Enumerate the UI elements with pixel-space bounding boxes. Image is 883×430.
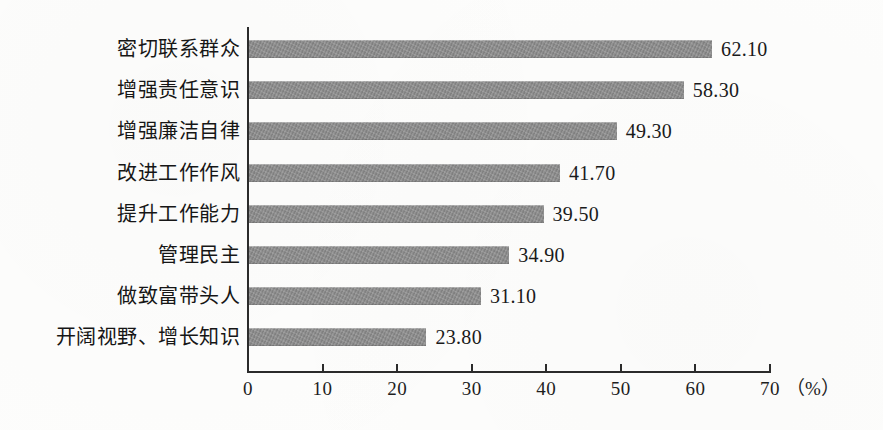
bar-value-label: 49.30 — [626, 120, 673, 142]
bar-value-label: 31.10 — [490, 285, 537, 307]
x-axis-tick — [694, 364, 696, 372]
category-label: 改进工作作风 — [117, 161, 240, 185]
bar — [249, 205, 544, 223]
x-axis-tick — [247, 364, 249, 372]
bar-value-label: 34.90 — [518, 244, 565, 266]
x-axis-tick — [396, 364, 398, 372]
bar — [249, 328, 426, 346]
bar-row: 改进工作作风41.70 — [0, 164, 883, 182]
bar-value-label: 41.70 — [569, 162, 616, 184]
x-axis-tick-label: 10 — [313, 378, 333, 400]
bar-row: 开阔视野、增长知识23.80 — [0, 328, 883, 346]
bar — [249, 164, 560, 182]
category-label: 密切联系群众 — [117, 37, 240, 61]
x-axis-tick — [471, 364, 473, 372]
bar-value-label: 62.10 — [721, 38, 768, 60]
category-label: 开阔视野、增长知识 — [56, 325, 241, 349]
bar-row: 增强责任意识58.30 — [0, 81, 883, 99]
bar-row: 管理民主34.90 — [0, 246, 883, 264]
bar — [249, 287, 481, 305]
category-label: 增强责任意识 — [117, 78, 240, 102]
x-axis-tick-label: 40 — [536, 378, 556, 400]
y-axis-line — [247, 27, 249, 373]
bar-row: 密切联系群众62.10 — [0, 40, 883, 58]
bar-value-label: 58.30 — [693, 79, 740, 101]
x-axis-tick-label: 30 — [462, 378, 482, 400]
x-axis-line — [247, 371, 771, 373]
bar-row: 做致富带头人31.10 — [0, 287, 883, 305]
x-axis-unit-label: （%） — [786, 378, 840, 400]
bar-value-label: 23.80 — [435, 326, 482, 348]
bar — [249, 40, 712, 58]
bar — [249, 81, 684, 99]
x-axis-tick — [322, 364, 324, 372]
x-axis-tick-label: 50 — [611, 378, 631, 400]
x-axis-tick-label: 60 — [685, 378, 705, 400]
bar-chart: 密切联系群众62.10增强责任意识58.30增强廉洁自律49.30改进工作作风4… — [0, 0, 883, 430]
x-axis-tick-label: 70 — [760, 378, 780, 400]
bar-row: 提升工作能力39.50 — [0, 205, 883, 223]
x-axis-tick — [769, 364, 771, 372]
bar — [249, 246, 509, 264]
bar-row: 增强廉洁自律49.30 — [0, 122, 883, 140]
bar-value-label: 39.50 — [553, 203, 600, 225]
bar — [249, 122, 617, 140]
x-axis-tick-label: 0 — [243, 378, 253, 400]
category-label: 做致富带头人 — [117, 284, 240, 308]
x-axis-tick — [620, 364, 622, 372]
x-axis-tick-label: 20 — [387, 378, 407, 400]
x-axis-tick — [545, 364, 547, 372]
category-label: 提升工作能力 — [117, 202, 240, 226]
category-label: 增强廉洁自律 — [117, 119, 240, 143]
category-label: 管理民主 — [158, 243, 240, 267]
